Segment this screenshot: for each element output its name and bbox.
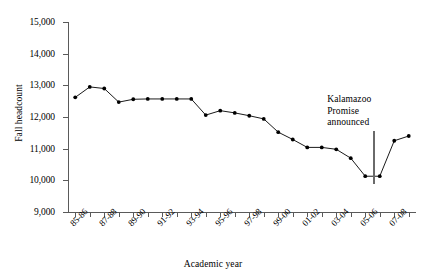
y-tick-label: 13,000 bbox=[29, 80, 55, 90]
data-point bbox=[349, 156, 353, 160]
data-point bbox=[247, 114, 251, 118]
data-point bbox=[160, 97, 164, 101]
data-point bbox=[407, 134, 411, 138]
data-point bbox=[88, 85, 92, 89]
x-axis-line bbox=[68, 212, 416, 213]
y-tick: 9,000 bbox=[63, 212, 68, 213]
y-tick-label: 14,000 bbox=[29, 49, 55, 59]
annotation-line-1: Kalamazoo bbox=[327, 94, 371, 105]
annotation-rule-kalamazoo-promise bbox=[373, 131, 374, 183]
annotation-line-3: announced bbox=[327, 117, 371, 128]
data-point bbox=[102, 87, 106, 91]
data-point bbox=[131, 97, 135, 101]
data-point bbox=[305, 146, 309, 150]
chart-root: Fall headcount Academic year 15,00014,00… bbox=[0, 0, 426, 279]
x-axis-title: Academic year bbox=[0, 259, 426, 269]
x-tick bbox=[177, 212, 178, 217]
data-point bbox=[175, 97, 179, 101]
annotation-label-kalamazoo-promise: KalamazooPromiseannounced bbox=[327, 94, 371, 128]
y-tick-label: 12,000 bbox=[29, 112, 55, 122]
data-point bbox=[262, 117, 266, 121]
data-point bbox=[73, 95, 77, 99]
data-point bbox=[378, 174, 382, 178]
data-point bbox=[320, 146, 324, 150]
data-point bbox=[276, 130, 280, 134]
y-tick-label: 11,000 bbox=[30, 144, 55, 154]
data-point bbox=[233, 111, 237, 115]
data-point bbox=[218, 109, 222, 113]
data-point bbox=[189, 97, 193, 101]
data-point bbox=[204, 113, 208, 117]
data-point bbox=[363, 174, 367, 178]
plot-area: 15,00014,00013,00012,00011,00010,0009,00… bbox=[68, 22, 416, 212]
y-axis-title: Fall headcount bbox=[14, 48, 24, 178]
data-point bbox=[117, 100, 121, 104]
y-tick-label: 9,000 bbox=[34, 207, 55, 217]
data-point bbox=[291, 138, 295, 142]
data-point bbox=[334, 147, 338, 151]
x-tick bbox=[322, 212, 323, 217]
y-tick-label: 10,000 bbox=[29, 175, 55, 185]
data-point bbox=[392, 139, 396, 143]
annotation-line-2: Promise bbox=[327, 106, 371, 117]
data-point bbox=[146, 97, 150, 101]
y-tick-label: 15,000 bbox=[29, 17, 55, 27]
